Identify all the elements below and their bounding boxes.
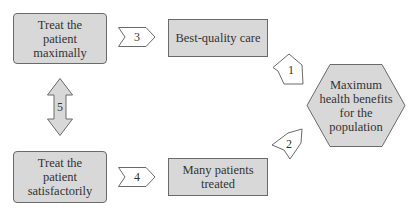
arrow-label: 2 (282, 138, 296, 150)
node-line: for the (319, 106, 392, 120)
node-goal-hexagon: Maximum health benefits for the populati… (306, 64, 406, 147)
arrow-2: 2 (271, 128, 307, 160)
arrow-label: 5 (53, 101, 67, 113)
node-line: population (319, 120, 392, 134)
arrow-label: 1 (284, 64, 298, 76)
arrow-5-double: 5 (47, 78, 73, 136)
node-line: treated (182, 177, 253, 191)
node-label: Best-quality care (175, 31, 260, 45)
node-line: patient (33, 32, 86, 46)
arrow-3-chevron: 3 (118, 27, 156, 47)
node-line: health benefits (319, 92, 392, 106)
arrow-1: 1 (272, 53, 308, 85)
node-line: Many patients (182, 163, 253, 177)
node-line: patient (28, 170, 93, 184)
diagram-canvas: Treat the patient maximally 3 Best-quali… (0, 0, 415, 216)
node-treat-maximally: Treat the patient maximally (13, 13, 107, 64)
node-best-quality-care: Best-quality care (168, 19, 268, 57)
node-line: Maximum (319, 78, 392, 92)
arrow-4-chevron: 4 (118, 167, 156, 187)
node-many-patients-treated: Many patients treated (168, 158, 268, 196)
node-line: Treat the (28, 156, 93, 170)
arrow-label: 4 (130, 171, 144, 183)
node-line: maximally (33, 46, 86, 60)
node-line: satisfactorily (28, 184, 93, 198)
arrow-label: 3 (130, 31, 144, 43)
node-treat-satisfactorily: Treat the patient satisfactorily (13, 151, 107, 203)
node-line: Treat the (33, 18, 86, 32)
